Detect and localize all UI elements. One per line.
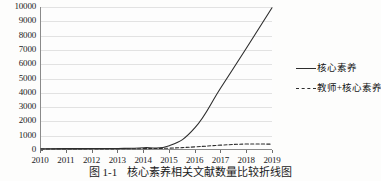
y-tick-label: 3000	[0, 102, 36, 111]
series-line	[41, 8, 272, 149]
x-tick-mark	[169, 150, 170, 153]
x-tick-mark	[195, 150, 196, 153]
y-tick-label: 8000	[0, 31, 36, 40]
legend-item[interactable]: 教师+核心素养	[296, 78, 381, 98]
x-tick-mark	[66, 150, 67, 153]
plot-area	[40, 7, 272, 150]
legend-label: 教师+核心素养	[317, 83, 381, 93]
legend-item[interactable]: 核心素养	[296, 58, 381, 78]
y-tick-label: 7000	[0, 45, 36, 54]
x-tick-mark	[40, 150, 41, 153]
y-tick-label: 6000	[0, 59, 36, 68]
y-tick-label: 9000	[0, 16, 36, 25]
x-tick-mark	[92, 150, 93, 153]
figure-caption: 图 1-1核心素养相关文献数量比较折线图	[0, 166, 381, 179]
y-tick-label: 5000	[0, 74, 36, 83]
legend-label: 核心素养	[317, 63, 357, 73]
y-tick-label: 4000	[0, 88, 36, 97]
series-lines	[41, 7, 272, 149]
x-tick-mark	[246, 150, 247, 153]
caption-text: 核心素养相关文献数量比较折线图	[127, 166, 292, 178]
y-tick-label: 1000	[0, 131, 36, 140]
y-axis: 0100020003000400050006000700080009000100…	[0, 0, 36, 160]
x-tick-mark	[117, 150, 118, 153]
y-tick-label: 10000	[0, 2, 36, 11]
x-tick-mark	[272, 150, 273, 153]
y-tick-label: 2000	[0, 116, 36, 125]
x-tick-mark	[143, 150, 144, 153]
y-tick-label: 0	[0, 145, 36, 154]
x-tick-mark	[220, 150, 221, 153]
chart-legend: 核心素养教师+核心素养	[296, 58, 381, 98]
x-tick-label: 2019	[257, 155, 287, 165]
dashed-line-icon	[296, 84, 316, 92]
caption-number: 图 1-1	[89, 166, 117, 178]
solid-line-icon	[296, 64, 316, 72]
figure-container: 0100020003000400050006000700080009000100…	[0, 0, 381, 181]
